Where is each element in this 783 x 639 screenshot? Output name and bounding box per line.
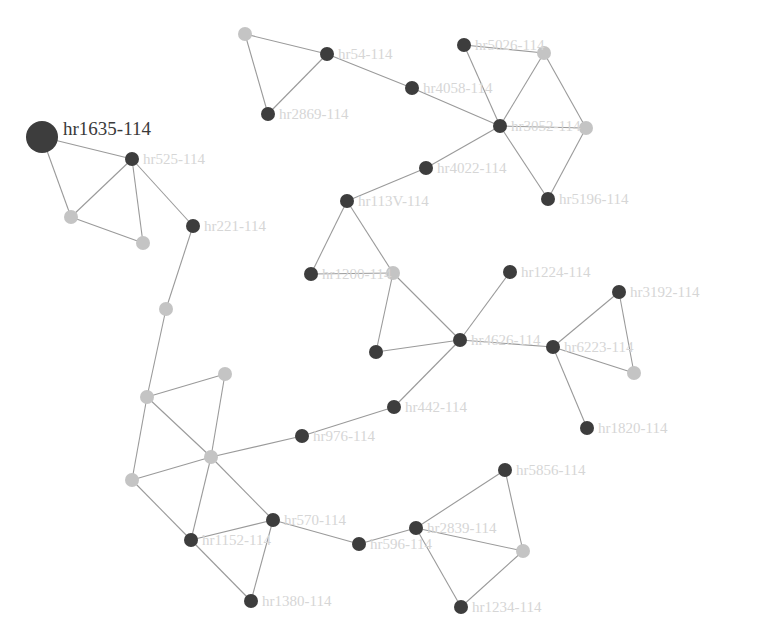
graph-node[interactable] [516,544,530,558]
graph-node[interactable] [503,265,517,279]
graph-edge [166,226,193,309]
graph-edge [376,340,460,352]
highlighted-node-label: hr1635-114 [63,118,151,139]
graph-edge [394,340,460,407]
graph-edge [191,457,211,540]
graph-node[interactable] [457,38,471,52]
graph-node[interactable] [125,152,139,166]
node-label: hr5856-114 [516,462,586,478]
graph-node[interactable] [304,267,318,281]
node-label: hr596-114 [370,536,432,552]
graph-edge [132,159,193,226]
node-label: hr442-114 [405,399,467,415]
graph-edge [376,273,393,352]
graph-node[interactable] [541,192,555,206]
graph-edge [132,457,211,480]
graph-node[interactable] [238,27,252,41]
node-label: hr4022-114 [437,160,507,176]
graph-node[interactable] [612,285,626,299]
node-label: hr54-114 [338,46,393,62]
node-label: hr2839-114 [427,520,497,536]
graph-node[interactable] [579,121,593,135]
graph-edge [245,34,327,54]
graph-node[interactable] [369,345,383,359]
node-label: hr1152-114 [202,532,271,548]
graph-node[interactable] [580,421,594,435]
graph-node[interactable] [186,219,200,233]
graph-node[interactable] [125,473,139,487]
graph-node[interactable] [140,390,154,404]
graph-edge [544,53,586,128]
node-label: hr6223-114 [564,339,634,355]
highlighted-node[interactable] [26,121,58,153]
graph-edge [505,470,523,551]
graph-node[interactable] [184,533,198,547]
graph-node[interactable] [295,429,309,443]
graph-edge [268,54,327,114]
node-label: hr4058-114 [423,80,493,96]
graph-node[interactable] [419,161,433,175]
graph-edge [71,159,132,217]
graph-edge [132,480,191,540]
graph-node[interactable] [493,119,507,133]
graph-node[interactable] [218,367,232,381]
graph-node[interactable] [454,600,468,614]
graph-edge [548,128,586,199]
graph-edge [393,273,460,340]
graph-node[interactable] [244,594,258,608]
node-label: hr5026-114 [475,37,545,53]
graph-node[interactable] [340,194,354,208]
graph-edge [71,217,143,243]
graph-edge [147,309,166,397]
graph-node[interactable] [453,333,467,347]
graph-edge [132,397,147,480]
node-label: hr5196-114 [559,191,629,207]
network-graph: hr1635-114hr525-114hr221-114hr976-114hr1… [0,0,783,639]
node-label: hr1380-114 [262,593,332,609]
graph-edge [619,292,634,373]
graph-edge [147,397,211,457]
graph-edge [500,53,544,126]
graph-node[interactable] [261,107,275,121]
graph-node[interactable] [627,366,641,380]
node-label: hr3192-114 [630,284,700,300]
node-label: hr3052-114 [511,118,581,134]
node-label: hr2869-114 [279,106,349,122]
graph-node[interactable] [266,513,280,527]
graph-edge [553,347,587,428]
graph-edge [460,272,510,340]
graph-edge [132,159,143,243]
graph-edge [191,540,251,601]
graph-edge [147,374,225,397]
graph-edge [211,457,273,520]
graph-node[interactable] [136,236,150,250]
node-label: hr525-114 [143,151,205,167]
graph-edge [211,374,225,457]
node-label: hr1234-114 [472,599,542,615]
node-label: hr1200-114 [322,266,392,282]
graph-node[interactable] [387,400,401,414]
graph-node[interactable] [320,47,334,61]
graph-node[interactable] [405,81,419,95]
node-label: hr221-114 [204,218,266,234]
node-label: hr4626-114 [471,332,541,348]
graph-node[interactable] [409,521,423,535]
graph-node[interactable] [64,210,78,224]
graph-node[interactable] [204,450,218,464]
graph-edge [211,436,302,457]
node-label: hr113V-114 [358,193,429,209]
node-label: hr976-114 [313,428,375,444]
graph-edge [347,201,393,273]
graph-node[interactable] [159,302,173,316]
graph-node[interactable] [546,340,560,354]
node-label: hr570-114 [284,512,346,528]
graph-edge [311,201,347,274]
graph-node[interactable] [352,537,366,551]
graph-edge [500,126,548,199]
graph-edge [245,34,268,114]
node-label: hr1224-114 [521,264,591,280]
node-label: hr1820-114 [598,420,668,436]
graph-node[interactable] [498,463,512,477]
